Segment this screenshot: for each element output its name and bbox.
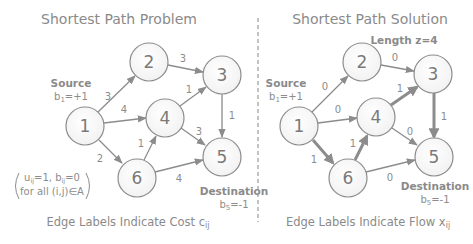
node-label: 1 [80,116,91,136]
right-node-1: 1 [280,107,318,145]
node-label: 4 [160,108,171,128]
edge-label-1-6: 1 [311,154,317,165]
capacity-note: uij=1, bij=0 for all (i,j)∈A [16,172,90,199]
node-label: 2 [144,52,155,72]
edge-label-4-3: 1 [186,84,192,95]
left-node-1: 1 [66,107,104,145]
edge-2-3 [381,65,414,71]
edge-label-3-5: 1 [229,110,235,121]
destination-supply: b5=-1 [420,194,449,207]
left-node-5: 5 [203,138,241,176]
left-node-3: 3 [203,56,241,94]
node-label: 5 [429,147,440,167]
edge-6-5 [155,160,203,172]
edge-label-6-5: 4 [176,173,182,184]
node-label: 6 [132,168,143,188]
edge-label-3-5: 1 [441,111,447,122]
edge-4-5 [392,128,417,145]
right-node-5: 5 [415,138,453,176]
edge-2-3 [168,65,203,72]
node-label: 1 [294,116,305,136]
edge-label-4-3: 1 [397,83,403,94]
left-panel: Shortest Path Problem 3 4 2 3 1 1 3 1 4 [16,11,269,230]
edge-6-4-path [355,136,367,160]
shortest-path-diagram: Shortest Path Problem 3 4 2 3 1 1 3 1 4 [0,0,473,244]
edge-6-4 [144,136,156,160]
source-supply: b1=+1 [54,91,88,104]
edge-label-6-4: 1 [350,138,356,149]
edge-label-6-5: 0 [387,172,393,183]
right-node-6: 6 [329,159,367,197]
edge-label-6-4: 1 [138,138,144,149]
left-caption: Edge Labels Indicate Cost cij [46,215,209,230]
edge-6-5 [366,160,415,172]
node-label: 3 [217,65,228,85]
right-panel: Shortest Path Solution Length z=4 0 0 1 … [266,11,470,230]
left-paren [16,173,20,199]
right-paren [86,173,90,199]
node-label: 5 [217,147,228,167]
source-label: Source [51,77,92,89]
right-node-3: 3 [414,55,452,93]
capacity-note-line2: for all (i,j)∈A [20,186,84,197]
destination-label: Destination [401,180,470,192]
edge-1-4 [104,118,146,123]
right-caption: Edge Labels Indicate Flow xij [286,215,450,230]
edge-1-2 [98,76,135,112]
source-label: Source [266,77,307,89]
edge-1-4 [318,118,357,123]
left-node-2: 2 [130,43,168,81]
capacity-note-line1: uij=1, bij=0 [24,172,80,185]
edge-label-2-3: 3 [180,53,186,64]
edge-label-1-4: 0 [335,104,341,115]
edge-label-4-5: 0 [407,126,413,137]
path-length-label: Length z=4 [370,34,437,46]
edge-4-3-path [391,87,417,105]
node-label: 6 [343,168,354,188]
left-node-4: 4 [146,99,184,137]
left-node-6: 6 [118,159,156,197]
edge-4-3 [180,87,206,106]
edge-label-1-6: 2 [97,153,103,164]
edge-label-1-2: 0 [322,81,328,92]
destination-supply: b5=-1 [219,199,248,212]
node-label: 2 [357,52,368,72]
node-label: 3 [428,64,439,84]
left-panel-title: Shortest Path Problem [41,11,197,27]
edge-label-1-4: 4 [121,104,127,115]
edge-label-4-5: 3 [196,126,202,137]
right-node-2: 2 [343,43,381,81]
edge-label-2-3: 0 [392,52,398,63]
source-supply: b1=+1 [269,91,303,104]
edge-1-2 [312,76,348,112]
edge-label-1-2: 3 [105,91,111,102]
right-node-4: 4 [357,98,395,136]
right-panel-title: Shortest Path Solution [292,11,448,27]
node-label: 4 [371,107,382,127]
